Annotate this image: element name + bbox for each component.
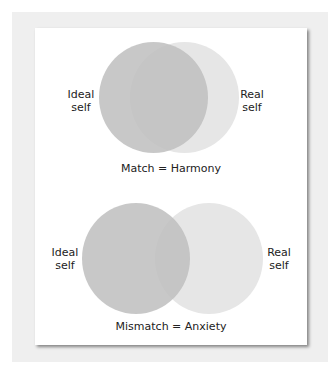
mismatch-caption: Mismatch = Anxiety — [35, 320, 307, 333]
real-self-label: Real self — [232, 88, 272, 114]
real-self-label: Real self — [259, 246, 299, 272]
figure-card: Ideal self Real self Match = Harmony Ide… — [35, 28, 307, 345]
match-caption: Match = Harmony — [35, 162, 307, 175]
ideal-self-label: Ideal self — [61, 88, 101, 114]
ideal-self-label: Ideal self — [45, 246, 85, 272]
ideal-self-circle — [99, 42, 208, 153]
ideal-self-circle — [82, 203, 190, 314]
